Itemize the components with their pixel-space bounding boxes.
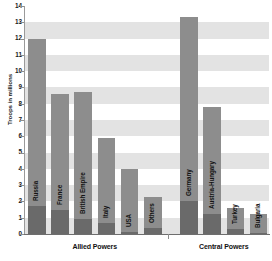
y-tick-label: 2	[0, 198, 22, 204]
y-tick-label: 9	[0, 84, 22, 90]
y-tick-mark	[20, 6, 24, 7]
y-tick-label: 4	[0, 166, 22, 172]
y-tick-mark	[20, 234, 24, 235]
y-tick-mark	[20, 201, 24, 202]
y-tick-label: 5	[0, 149, 22, 155]
y-tick-label: 1	[0, 215, 22, 221]
y-tick-mark	[20, 120, 24, 121]
y-tick-mark	[20, 55, 24, 56]
y-axis-ticks: 01234567891011121314	[0, 0, 272, 261]
y-tick-label: 14	[0, 3, 22, 9]
y-tick-label: 10	[0, 68, 22, 74]
y-tick-mark	[20, 87, 24, 88]
y-tick-mark	[20, 218, 24, 219]
y-tick-label: 8	[0, 101, 22, 107]
y-tick-mark	[20, 22, 24, 23]
y-tick-mark	[20, 169, 24, 170]
y-tick-label: 7	[0, 117, 22, 123]
y-tick-mark	[20, 136, 24, 137]
y-tick-mark	[20, 185, 24, 186]
y-tick-mark	[20, 71, 24, 72]
y-tick-label: 6	[0, 133, 22, 139]
y-tick-label: 11	[0, 52, 22, 58]
group-label: Central Powers	[164, 243, 272, 250]
y-tick-mark	[20, 104, 24, 105]
group-label: Allied Powers	[35, 243, 155, 250]
y-tick-label: 3	[0, 182, 22, 188]
y-tick-label: 0	[0, 231, 22, 237]
y-tick-label: 12	[0, 35, 22, 41]
y-tick-mark	[20, 39, 24, 40]
bar-chart: Troops in millions RussiaFranceBritish E…	[0, 0, 272, 261]
y-tick-label: 13	[0, 19, 22, 25]
y-tick-mark	[20, 153, 24, 154]
